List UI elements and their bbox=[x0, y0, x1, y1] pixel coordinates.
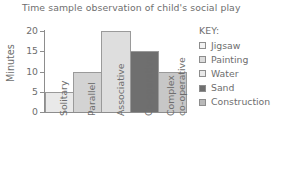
legend-item: Water bbox=[199, 67, 285, 81]
legend-item-label: Water bbox=[211, 69, 238, 79]
legend-item-label: Sand bbox=[211, 83, 234, 93]
x-axis-label-line: Parallel bbox=[86, 82, 97, 116]
y-axis-tick: 5 bbox=[0, 92, 45, 93]
legend-swatch-icon bbox=[199, 56, 206, 63]
y-axis-tick-label: 20 bbox=[20, 26, 38, 35]
y-axis-tick-label: 10 bbox=[20, 67, 38, 76]
chart-title: Time sample observation of child's socia… bbox=[22, 2, 222, 14]
x-axis-label-line: Associative bbox=[115, 63, 126, 116]
y-axis-tick-label: 0 bbox=[20, 107, 38, 116]
y-axis-tick: 0 bbox=[0, 112, 45, 113]
x-axis-label-line: Solitary bbox=[58, 81, 69, 116]
legend-item: Jigsaw bbox=[199, 39, 285, 53]
y-axis-tick-label: 5 bbox=[20, 87, 38, 96]
x-axis-label-text: Solitary bbox=[59, 81, 70, 116]
legend: KEY: JigsawPaintingWaterSandConstruction bbox=[199, 25, 285, 109]
y-axis-tick: 10 bbox=[0, 72, 45, 73]
x-axis-label-line: Co-operative bbox=[143, 56, 154, 116]
legend-title: KEY: bbox=[199, 25, 285, 36]
legend-item: Painting bbox=[199, 53, 285, 67]
legend-swatch-icon bbox=[199, 70, 206, 77]
legend-swatch-icon bbox=[199, 42, 206, 49]
x-axis-label-text: Co-operative bbox=[144, 56, 155, 116]
legend-item: Construction bbox=[199, 95, 285, 109]
x-axis-label-line: Complex bbox=[165, 75, 176, 116]
x-axis-label-text: Complexco-operative bbox=[166, 57, 187, 116]
legend-item-label: Construction bbox=[211, 97, 270, 107]
x-axis-label-text: Parallel bbox=[87, 82, 98, 116]
bar-chart: Time sample observation of child's socia… bbox=[0, 0, 285, 183]
x-axis-label-text: Associative bbox=[116, 63, 127, 116]
y-axis-tick: 15 bbox=[0, 51, 45, 52]
y-axis-tick: 20 bbox=[0, 31, 45, 32]
x-axis-label: Complexco-operative bbox=[166, 116, 225, 128]
y-axis-ticks: 05101520 bbox=[0, 0, 46, 183]
y-axis-tick-label: 15 bbox=[20, 46, 38, 55]
legend-swatch-icon bbox=[199, 85, 206, 92]
legend-item-label: Jigsaw bbox=[211, 41, 240, 51]
legend-item-label: Painting bbox=[211, 55, 248, 65]
legend-swatch-icon bbox=[199, 99, 206, 106]
x-axis-label-line: co-operative bbox=[176, 57, 187, 116]
legend-rows: JigsawPaintingWaterSandConstruction bbox=[199, 39, 285, 110]
legend-item: Sand bbox=[199, 81, 285, 95]
